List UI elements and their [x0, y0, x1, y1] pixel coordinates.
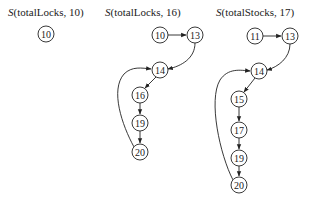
node-label: 11	[250, 31, 260, 42]
node-label: 14	[155, 65, 165, 76]
node-10: 10	[152, 27, 168, 43]
title-rest: (totalLocks, 10)	[14, 6, 85, 19]
node-13: 13	[282, 28, 298, 44]
node-label: 13	[190, 30, 200, 41]
edge-20-14	[118, 68, 151, 147]
node-17: 17	[231, 122, 247, 138]
node-20: 20	[132, 144, 148, 160]
node-20: 20	[231, 177, 247, 193]
node-label: 13	[285, 31, 295, 42]
node-label: 16	[135, 90, 145, 101]
title-rest: (totalLocks, 16)	[111, 6, 182, 19]
node-label: 14	[254, 66, 264, 77]
node-15: 15	[231, 91, 247, 107]
node-19: 19	[132, 115, 148, 131]
edge-13-14	[267, 44, 290, 70]
graph-title: S(totalLocks, 10)	[8, 6, 84, 19]
title-rest: (totalStocks, 17)	[222, 6, 295, 19]
node-11: 11	[247, 28, 263, 44]
node-label: 19	[234, 153, 244, 164]
node-label: 10	[155, 30, 165, 41]
node-16: 16	[132, 87, 148, 103]
graph-title: S(totalLocks, 16)	[105, 6, 181, 19]
node-label: 17	[234, 125, 244, 136]
node-label: 20	[135, 147, 145, 158]
node-label: 15	[234, 94, 244, 105]
node-13: 13	[187, 27, 203, 43]
node-19: 19	[231, 150, 247, 166]
edge-14-15	[244, 78, 255, 92]
graph-totalstocks-17: S(totalStocks, 17) 11 13 14 15 17	[215, 6, 298, 193]
node-label: 19	[135, 118, 145, 129]
state-diagrams: S(totalLocks, 10) 10 S(totalLocks, 16) 1…	[0, 0, 315, 203]
graph-title: S(totalStocks, 17)	[216, 6, 295, 19]
edge-13-14	[168, 43, 195, 69]
node-14: 14	[152, 62, 168, 78]
node-label: 20	[234, 180, 244, 191]
node-14: 14	[251, 63, 267, 79]
edge-14-16	[145, 77, 156, 88]
node-10: 10	[38, 26, 54, 42]
graph-totallocks-16: S(totalLocks, 16) 10 13 14 16 19	[105, 6, 203, 160]
graph-totallocks-10: S(totalLocks, 10) 10	[8, 6, 84, 42]
node-label: 10	[41, 29, 51, 40]
